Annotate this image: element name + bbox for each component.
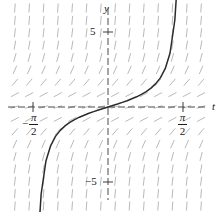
slope-segment bbox=[100, 152, 102, 161]
slope-segment bbox=[100, 16, 101, 25]
slope-segment bbox=[100, 28, 101, 37]
slope-segment bbox=[28, 53, 30, 62]
slope-segment bbox=[129, 164, 131, 173]
slope-segment bbox=[142, 140, 146, 148]
slope-segment bbox=[126, 93, 134, 97]
slope-segment bbox=[156, 140, 160, 148]
slope-segment bbox=[15, 202, 16, 211]
slope-segment bbox=[101, 202, 102, 211]
slope-segment bbox=[168, 93, 176, 97]
slope-segment bbox=[15, 4, 16, 13]
slope-segment bbox=[172, 4, 173, 13]
slope-segment bbox=[114, 152, 116, 161]
slope-segment bbox=[141, 128, 147, 135]
slope-segment bbox=[170, 79, 176, 86]
slope-segment bbox=[128, 66, 132, 74]
slope-segment bbox=[14, 28, 15, 37]
slope-segment bbox=[186, 53, 188, 62]
slope-segment bbox=[185, 140, 189, 148]
slope-segment bbox=[111, 93, 119, 97]
slope-segment bbox=[29, 16, 30, 25]
slope-segment bbox=[186, 189, 187, 198]
slope-segment bbox=[143, 53, 145, 62]
slope-segment bbox=[72, 202, 73, 211]
slope-segment bbox=[100, 41, 102, 50]
slope-segment bbox=[143, 202, 144, 211]
slope-segment bbox=[143, 41, 145, 50]
slope-segment bbox=[55, 79, 61, 86]
slope-segment bbox=[199, 140, 203, 148]
slope-segment bbox=[27, 66, 31, 74]
slope-segment bbox=[186, 16, 187, 25]
slope-segment bbox=[112, 79, 118, 86]
slope-segment bbox=[40, 117, 48, 121]
axes-group bbox=[8, 8, 208, 200]
slope-segment bbox=[172, 16, 173, 25]
slope-segment bbox=[129, 177, 130, 186]
slope-segment bbox=[115, 177, 116, 186]
slope-segment bbox=[43, 4, 44, 13]
slope-segment bbox=[58, 4, 59, 13]
slope-segment bbox=[86, 28, 87, 37]
slope-segment bbox=[154, 93, 162, 97]
slope-segment bbox=[114, 41, 116, 50]
y-axis-label: y bbox=[104, 3, 109, 14]
slope-segment bbox=[100, 189, 101, 198]
slope-segment bbox=[69, 79, 75, 86]
slope-segment bbox=[168, 117, 176, 121]
slope-segment bbox=[198, 128, 204, 135]
slope-segment bbox=[186, 202, 187, 211]
minus-sign: − bbox=[22, 118, 29, 129]
slope-segment bbox=[111, 117, 119, 121]
slope-segment bbox=[57, 152, 59, 161]
slope-segment bbox=[86, 202, 87, 211]
slope-segment bbox=[199, 66, 203, 74]
slope-segment bbox=[112, 128, 118, 135]
slope-segment bbox=[86, 16, 87, 25]
slope-segment bbox=[57, 189, 58, 198]
slope-segment bbox=[43, 16, 44, 25]
slope-segment bbox=[13, 66, 17, 74]
slope-segment bbox=[114, 53, 116, 62]
slope-segment bbox=[72, 4, 73, 13]
t-axis-label: t bbox=[212, 101, 215, 112]
slope-segment bbox=[72, 16, 73, 25]
slope-segment bbox=[84, 128, 90, 135]
slope-segment bbox=[157, 164, 159, 173]
slope-segment bbox=[201, 177, 202, 186]
slope-segment bbox=[69, 128, 75, 135]
slope-segment bbox=[14, 189, 15, 198]
slope-segment bbox=[142, 66, 146, 74]
slope-segment bbox=[171, 66, 175, 74]
slope-segment bbox=[171, 140, 175, 148]
slope-segment bbox=[57, 53, 59, 62]
slope-segment bbox=[201, 16, 202, 25]
slope-segment bbox=[129, 28, 130, 37]
slope-segment bbox=[43, 189, 44, 198]
slope-segment bbox=[185, 66, 189, 74]
slope-segment bbox=[172, 189, 173, 198]
slope-segment bbox=[98, 79, 104, 86]
slope-segment bbox=[200, 53, 202, 62]
tick-label-y-negative: −5 bbox=[85, 176, 97, 187]
slope-segment bbox=[29, 28, 30, 37]
slope-segment bbox=[143, 16, 144, 25]
slope-segment bbox=[171, 53, 173, 62]
slope-segment bbox=[71, 53, 73, 62]
slope-segment bbox=[115, 28, 116, 37]
slope-segment bbox=[129, 4, 130, 13]
slope-segment bbox=[128, 140, 132, 148]
slope-segment bbox=[70, 140, 74, 148]
slope-segment bbox=[201, 189, 202, 198]
slope-segment bbox=[71, 152, 73, 161]
slope-segment bbox=[86, 41, 88, 50]
slope-segment bbox=[143, 28, 144, 37]
slope-segment bbox=[143, 164, 145, 173]
slope-segment bbox=[171, 152, 173, 161]
slope-segment bbox=[154, 117, 162, 121]
slope-segment bbox=[113, 66, 117, 74]
slope-segment bbox=[42, 152, 44, 161]
slope-segment bbox=[115, 189, 116, 198]
slope-segment bbox=[42, 66, 46, 74]
slope-segment bbox=[158, 4, 159, 13]
